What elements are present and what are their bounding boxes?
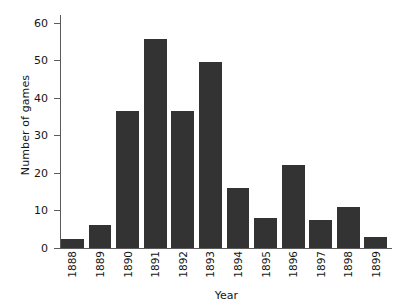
bar[interactable] [337, 207, 360, 248]
bar-slot [309, 15, 332, 248]
bar-chart: Number of games 0102030405060 1888188918… [0, 0, 419, 307]
y-axis-tick-mark [54, 135, 60, 136]
y-axis-tick-label: 40 [24, 92, 48, 103]
y-axis-tick-label: 0 [24, 243, 48, 254]
bar-slot [337, 15, 360, 248]
bar-slot [227, 15, 250, 248]
x-axis-tick-label: 1890 [116, 251, 139, 287]
bar[interactable] [171, 111, 194, 248]
y-axis-tick-mark [54, 248, 60, 249]
plot-area [61, 15, 392, 248]
bar-slot [144, 15, 167, 248]
bar-slot [199, 15, 222, 248]
bar[interactable] [199, 62, 222, 248]
y-axis-tick-mark [54, 173, 60, 174]
x-axis-tick-label: 1898 [337, 251, 360, 287]
bar[interactable] [144, 39, 167, 248]
x-axis-tick-label: 1892 [171, 251, 194, 287]
bar[interactable] [61, 239, 84, 248]
bar-slot [61, 15, 84, 248]
bar[interactable] [282, 165, 305, 248]
y-axis-tick-label: 10 [24, 205, 48, 216]
x-axis-line [60, 248, 392, 249]
x-axis-tick-label: 1893 [199, 251, 222, 287]
bar[interactable] [227, 188, 250, 248]
y-axis-tick-labels: 0102030405060 [22, 0, 48, 307]
bar[interactable] [116, 111, 139, 248]
bar-slot [254, 15, 277, 248]
y-axis-tick-mark [54, 98, 60, 99]
y-axis-tick-label: 30 [24, 130, 48, 141]
bar[interactable] [89, 225, 112, 248]
bar-slot [116, 15, 139, 248]
y-axis-tick-label: 20 [24, 167, 48, 178]
y-axis-tick-label: 60 [24, 17, 48, 28]
bar[interactable] [254, 218, 277, 248]
x-axis-tick-label: 1899 [364, 251, 387, 287]
y-axis-tick-mark [54, 60, 60, 61]
x-axis-tick-labels: 1888188918901891189218931894189518961897… [61, 251, 392, 289]
x-axis-tick-label: 1891 [144, 251, 167, 287]
bar[interactable] [309, 220, 332, 248]
bar-slot [282, 15, 305, 248]
bar[interactable] [364, 237, 387, 248]
x-axis-tick-label: 1896 [282, 251, 305, 287]
y-axis-tick-label: 50 [24, 55, 48, 66]
x-axis-tick-label: 1897 [309, 251, 332, 287]
y-axis-tick-mark [54, 210, 60, 211]
x-axis-tick-label: 1888 [61, 251, 84, 287]
x-axis-tick-label: 1895 [254, 251, 277, 287]
y-axis-tick-mark [54, 23, 60, 24]
bar-slot [89, 15, 112, 248]
bar-slot [364, 15, 387, 248]
x-axis-tick-label: 1889 [89, 251, 112, 287]
x-axis-tick-label: 1894 [227, 251, 250, 287]
bar-slot [171, 15, 194, 248]
x-axis-title: Year [61, 289, 392, 302]
